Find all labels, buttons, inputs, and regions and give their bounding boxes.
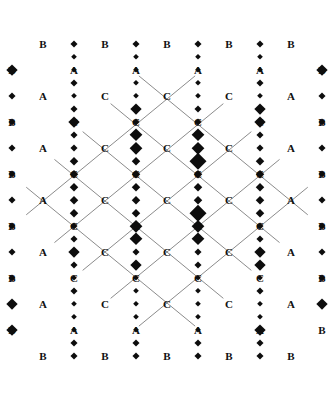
lattice-label-b: B [101,39,108,50]
lattice-label-b: B [287,351,294,362]
lattice-label-b: B [318,325,325,336]
lattice-label-c: C [101,195,109,206]
lattice-label-c: C [101,143,109,154]
lattice-label-c: C [163,195,171,206]
lattice-label-c: C [225,143,233,154]
lattice-label-a: A [287,91,295,102]
lattice-label-b: B [287,39,294,50]
lattice-label-b: B [163,351,170,362]
lattice-label-c: C [225,247,233,258]
lattice-label-a: A [287,299,295,310]
lattice-label-b: B [225,351,232,362]
lattice-label-c: C [101,247,109,258]
lattice-label-b: B [163,39,170,50]
lattice-label-a: A [287,143,295,154]
lattice-label-b: B [225,39,232,50]
lattice-label-c: C [225,91,233,102]
lattice-label-a: A [39,91,47,102]
lattice-label-c: C [163,299,171,310]
figure-canvas: BBBBBBAAAABACCCABCCCCBACCCABCCCCBACCCABC… [0,0,334,402]
lattice-label-b: B [39,351,46,362]
lattice-label-c: C [163,91,171,102]
lattice-label-a: A [39,143,47,154]
lattice-label-c: C [163,247,171,258]
lattice-label-c: C [225,195,233,206]
lattice-label-b: B [39,39,46,50]
lattice-label-a: A [39,299,47,310]
lattice-label-c: C [101,299,109,310]
lattice-label-a: A [39,195,47,206]
lattice-label-b: B [101,351,108,362]
lattice-label-c: C [163,143,171,154]
lattice-label-a: A [287,195,295,206]
lattice-label-a: A [39,247,47,258]
lattice-label-c: C [101,91,109,102]
lattice-label-a: A [287,247,295,258]
lattice-label-c: C [225,299,233,310]
